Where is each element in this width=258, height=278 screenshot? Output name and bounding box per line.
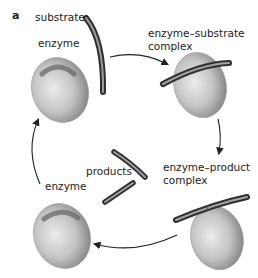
enzyme-label-top: enzyme xyxy=(38,37,80,49)
enzyme-label-bottom: enzyme xyxy=(45,180,87,192)
enzyme-product-complex xyxy=(176,197,250,276)
arrow-release xyxy=(95,235,177,248)
enzyme-cycle-diagram: a substrate enzyme enzyme–substrate comp… xyxy=(0,0,258,278)
enzyme-substrate-complex xyxy=(163,46,234,123)
panel-label: a xyxy=(12,10,19,22)
es-complex-label-line2: complex xyxy=(148,40,193,52)
substrate-rod xyxy=(86,18,103,92)
products-label: products xyxy=(86,165,132,177)
ep-complex-label-line2: complex xyxy=(163,174,208,186)
arrow-recycle xyxy=(32,120,40,184)
enzyme-free-bottom xyxy=(24,195,99,276)
substrate-label: substrate xyxy=(35,11,85,23)
arrow-catalysis xyxy=(218,119,220,153)
arrow-binding xyxy=(110,55,167,64)
es-complex-label-line1: enzyme–substrate xyxy=(148,27,244,39)
product-rods xyxy=(105,152,145,202)
ep-complex-label-line1: enzyme–product xyxy=(163,161,250,173)
enzyme-free-top xyxy=(22,49,97,130)
